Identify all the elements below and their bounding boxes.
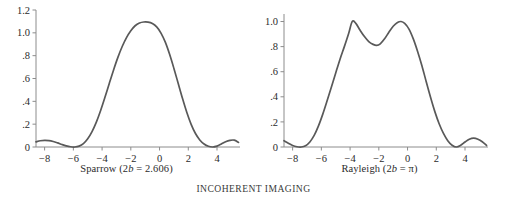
x-tick-label: −8 <box>287 153 298 164</box>
y-tick-label: .4 <box>22 96 31 107</box>
y-tick-label: .6 <box>270 66 278 77</box>
x-tick-label: −8 <box>39 153 50 164</box>
y-tick-label: 1.2 <box>17 5 30 16</box>
x-tick-label: −6 <box>316 153 327 164</box>
y-tick-label: .8 <box>270 41 278 52</box>
y-tick-label: .8 <box>22 50 30 61</box>
chart-panel-sparrow: 0.2.4.6.81.01.2−8−6−4−2024 Sparrow (2b =… <box>0 0 253 180</box>
figure-caption: INCOHERENT IMAGING <box>0 183 507 194</box>
rayleigh-plot: 0.2.4.6.81.0−8−6−4−2024 <box>253 0 506 170</box>
y-tick-label: .2 <box>22 119 30 130</box>
rayleigh-caption: Rayleigh (2b = π) <box>253 163 506 174</box>
x-tick-label: −6 <box>68 153 79 164</box>
y-tick-label: 0 <box>273 142 278 153</box>
chart-panel-rayleigh: 0.2.4.6.81.0−8−6−4−2024 Rayleigh (2b = π… <box>253 0 506 180</box>
y-tick-label: .4 <box>270 91 279 102</box>
sparrow-plot: 0.2.4.6.81.01.2−8−6−4−2024 <box>0 0 253 170</box>
sparrow-caption-prefix: Sparrow (2 <box>80 163 128 174</box>
rayleigh-caption-suffix: = π) <box>397 163 417 174</box>
x-tick-label: 2 <box>186 153 191 164</box>
x-tick-label: −2 <box>125 153 136 164</box>
y-tick-label: .6 <box>22 73 30 84</box>
rayleigh-caption-prefix: Rayleigh (2 <box>341 163 391 174</box>
x-tick-label: 0 <box>157 153 162 164</box>
x-tick-label: −4 <box>96 153 108 164</box>
y-tick-label: 1.0 <box>17 27 30 38</box>
figure-incoherent-imaging: 0.2.4.6.81.01.2−8−6−4−2024 Sparrow (2b =… <box>0 0 507 206</box>
x-tick-label: 4 <box>214 153 220 164</box>
y-tick-label: .2 <box>270 117 278 128</box>
data-curve <box>284 21 487 147</box>
data-curve <box>36 22 239 147</box>
x-tick-label: −4 <box>344 153 356 164</box>
sparrow-caption-suffix: = 2.606) <box>134 163 173 174</box>
x-tick-label: 2 <box>434 153 439 164</box>
x-tick-label: 0 <box>405 153 410 164</box>
x-tick-label: −2 <box>373 153 384 164</box>
sparrow-caption: Sparrow (2b = 2.606) <box>0 163 253 174</box>
y-tick-label: 0 <box>25 142 30 153</box>
chart-panels: 0.2.4.6.81.01.2−8−6−4−2024 Sparrow (2b =… <box>0 0 507 180</box>
y-tick-label: 1.0 <box>265 16 278 27</box>
x-tick-label: 4 <box>462 153 468 164</box>
